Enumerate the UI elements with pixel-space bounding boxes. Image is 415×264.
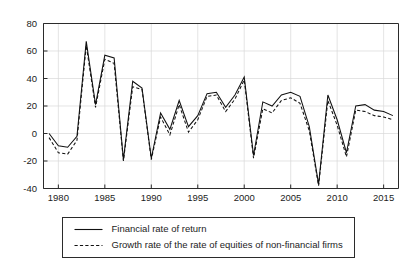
x-tick-label: 2005 [280, 192, 301, 203]
y-tick-label: 20 [26, 100, 37, 111]
y-tick-label: -20 [23, 155, 37, 166]
y-tick-label: 40 [26, 73, 37, 84]
y-tick-label: -40 [23, 183, 37, 194]
x-tick-label: 1980 [48, 192, 69, 203]
chart-legend: Financial rate of returnGrowth rate of t… [63, 218, 355, 258]
x-tick-label: 2000 [234, 192, 255, 203]
y-tick-label: 80 [26, 18, 37, 29]
x-tick-label: 1995 [187, 192, 208, 203]
legend-box [63, 218, 355, 258]
x-tick-label: 2015 [373, 192, 394, 203]
y-tick-label: 0 [32, 128, 37, 139]
x-tick-label: 2010 [327, 192, 348, 203]
x-tick-label: 1985 [94, 192, 115, 203]
legend-label: Financial rate of return [112, 223, 207, 234]
legend-label: Growth rate of the rate of equities of n… [112, 239, 344, 250]
line-chart: 806040200-20-40 198019851990199520002005… [0, 0, 415, 264]
y-tick-label: 60 [26, 45, 37, 56]
x-tick-label: 1990 [141, 192, 162, 203]
chart-figure: 806040200-20-40 198019851990199520002005… [0, 0, 415, 264]
